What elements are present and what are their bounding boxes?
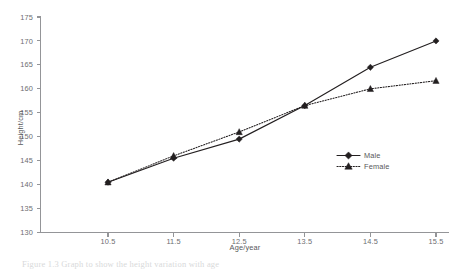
data-point-male-15.5 [433, 38, 439, 44]
x-tick-label-10.5: 10.5 [101, 237, 116, 246]
y-tick-label-160: 160 [20, 84, 33, 93]
legend-marker-male-diamond [345, 152, 352, 159]
figure-caption: Figure 1.3 Graph to show the height vari… [22, 259, 219, 269]
y-tick-label-130: 130 [20, 228, 33, 237]
legend-label-female: Female [364, 162, 390, 171]
chart-legend: Male Female [337, 151, 390, 171]
data-point-male-12.5 [236, 136, 242, 142]
data-point-male-14.5 [367, 64, 373, 70]
x-tick-label-14.5: 14.5 [363, 237, 378, 246]
y-axis-title: Height/cm [16, 111, 25, 146]
legend-label-male: Male [364, 151, 381, 160]
y-tick-label-170: 170 [20, 37, 33, 46]
data-point-female-15.5 [433, 77, 439, 83]
data-point-female-12.5 [236, 129, 242, 135]
legend-marker-female-triangle [345, 163, 352, 170]
x-tick-label-13.5: 13.5 [297, 237, 312, 246]
x-tick-label-15.5: 15.5 [429, 237, 444, 246]
y-tick-label-135: 135 [20, 204, 33, 213]
x-axis-ticks: 10.511.512.513.514.515.5 [101, 233, 444, 247]
y-tick-label-165: 165 [20, 60, 33, 69]
x-axis-title: Age/year [230, 243, 261, 252]
y-tick-label-175: 175 [20, 13, 33, 22]
y-tick-label-145: 145 [20, 156, 33, 165]
x-tick-label-11.5: 11.5 [166, 237, 180, 246]
y-tick-label-140: 140 [20, 180, 33, 189]
